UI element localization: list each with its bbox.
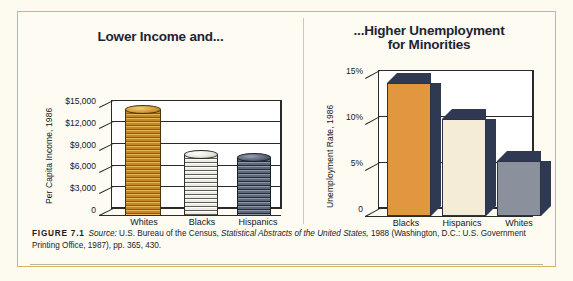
x-category-label-whites-unemp: Whites bbox=[489, 218, 549, 228]
figure-number: FIGURE 7.1 bbox=[32, 229, 85, 238]
x-axis-floor-income bbox=[99, 215, 281, 216]
x-category-label-hispanics: Hispanics bbox=[222, 217, 294, 227]
coin-stack-hispanics bbox=[237, 153, 271, 215]
caption-source-text-1: U.S. Bureau of the Census, bbox=[117, 229, 221, 238]
figure-frame: Lower Income and... Per Capita Income, 1… bbox=[17, 11, 556, 267]
coin-stack-body-blacks bbox=[184, 155, 218, 215]
y-tick-label-15000: $15,000 bbox=[36, 96, 96, 106]
charts-area: Lower Income and... Per Capita Income, 1… bbox=[18, 12, 555, 224]
y-tick-label-10pct: 10% bbox=[309, 112, 363, 122]
plot-right-edge-income bbox=[281, 100, 282, 209]
coin-top-whites bbox=[125, 105, 161, 114]
y-tick-label-5pct: 5% bbox=[309, 158, 363, 168]
y-tick-label-3000: $3,000 bbox=[36, 183, 96, 193]
bar-sideface-blacks bbox=[431, 83, 441, 216]
coin-stack-body-hispanics bbox=[237, 158, 271, 215]
chart-title-unemployment-line2: for Minorities bbox=[303, 38, 555, 52]
y-tick-label-6000: $6,000 bbox=[36, 161, 96, 171]
coin-stack-whites bbox=[125, 105, 161, 215]
bar-frontface-blacks bbox=[387, 83, 431, 216]
bar-whites bbox=[497, 161, 541, 216]
chart-title-unemployment-line1: ...Higher Unemployment bbox=[303, 24, 555, 38]
caption-source-italic: Statistical Abstracts of the United Stat… bbox=[221, 229, 369, 238]
y-tick-label-0: 0 bbox=[36, 205, 96, 215]
caption-source-prefix: Source: bbox=[89, 229, 117, 238]
chart-title-income: Lower Income and... bbox=[18, 30, 303, 44]
y-axis-line-income bbox=[111, 100, 112, 209]
y-axis-line-unemployment bbox=[378, 70, 379, 209]
caption-bottom-rule bbox=[30, 264, 543, 265]
x-axis-floor-unemployment bbox=[365, 216, 533, 217]
bar-frontface-whites bbox=[497, 161, 541, 216]
y-tick-label-12000: $12,000 bbox=[36, 118, 96, 128]
bar-frontface-hispanics bbox=[442, 119, 486, 216]
chart-panel-unemployment: ...Higher Unemployment for Minorities Un… bbox=[303, 12, 555, 224]
x-category-label-hispanics-unemp: Hispanics bbox=[429, 218, 495, 228]
gridline-15pct bbox=[378, 70, 533, 71]
x-category-label-blacks-unemp: Blacks bbox=[376, 218, 436, 228]
chart-panel-income: Lower Income and... Per Capita Income, 1… bbox=[18, 12, 303, 224]
bar-blacks bbox=[387, 83, 431, 216]
y-tick-label-9000: $9,000 bbox=[36, 140, 96, 150]
coin-top-blacks bbox=[184, 150, 218, 159]
x-category-label-whites: Whites bbox=[111, 217, 177, 227]
coin-top-hispanics bbox=[237, 153, 271, 162]
gridline-15000 bbox=[111, 100, 281, 101]
y-tick-label-0pct: 0 bbox=[309, 204, 363, 214]
coin-stack-body-whites bbox=[125, 110, 161, 215]
bar-hispanics bbox=[442, 119, 486, 216]
y-tick-label-15pct: 15% bbox=[309, 66, 363, 76]
coin-stack-blacks bbox=[184, 150, 218, 215]
bar-sideface-hispanics bbox=[486, 119, 496, 216]
figure-caption: FIGURE 7.1Source: U.S. Bureau of the Cen… bbox=[32, 228, 541, 251]
bar-sideface-whites bbox=[541, 161, 551, 216]
